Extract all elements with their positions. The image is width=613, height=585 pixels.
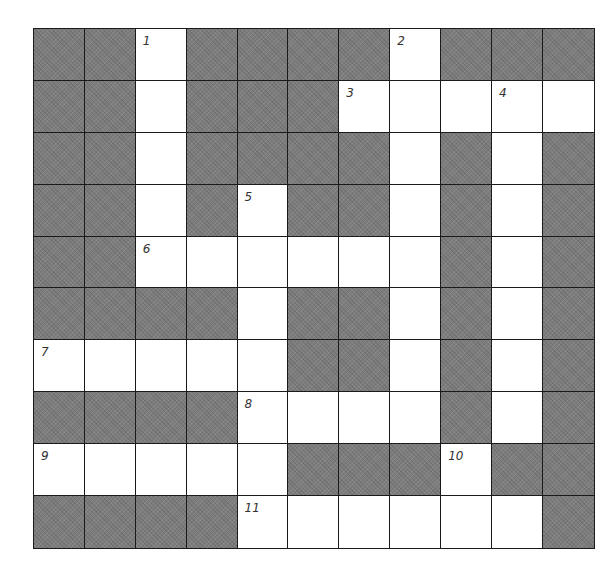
answer-cell[interactable] xyxy=(390,288,441,340)
block-cell xyxy=(288,133,339,185)
answer-cell[interactable] xyxy=(492,133,543,185)
block-cell xyxy=(492,444,543,496)
answer-cell[interactable] xyxy=(492,288,543,340)
answer-cell[interactable] xyxy=(492,392,543,444)
block-cell xyxy=(85,133,136,185)
answer-cell[interactable] xyxy=(543,81,594,133)
answer-cell[interactable]: 1 xyxy=(136,29,187,81)
answer-cell[interactable]: 11 xyxy=(238,496,289,548)
block-cell xyxy=(187,496,238,548)
cell-entry xyxy=(492,340,542,391)
block-cell xyxy=(34,185,85,237)
block-cell xyxy=(339,340,390,392)
cell-entry xyxy=(441,496,491,548)
answer-cell[interactable]: 3 xyxy=(339,81,390,133)
answer-cell[interactable] xyxy=(441,81,492,133)
answer-cell[interactable] xyxy=(390,392,441,444)
answer-cell[interactable] xyxy=(187,444,238,496)
block-cell xyxy=(288,81,339,133)
block-cell xyxy=(390,444,441,496)
block-cell xyxy=(441,185,492,237)
cell-entry xyxy=(34,340,84,391)
block-cell xyxy=(187,133,238,185)
cell-entry xyxy=(288,392,338,443)
answer-cell[interactable] xyxy=(187,237,238,289)
answer-cell[interactable] xyxy=(390,81,441,133)
answer-cell[interactable] xyxy=(390,133,441,185)
block-cell xyxy=(238,29,289,81)
block-cell xyxy=(543,237,594,289)
answer-cell[interactable]: 10 xyxy=(441,444,492,496)
block-cell xyxy=(85,288,136,340)
block-cell xyxy=(543,496,594,548)
cell-entry xyxy=(136,133,186,184)
answer-cell[interactable] xyxy=(85,340,136,392)
cell-entry xyxy=(492,392,542,443)
block-cell xyxy=(85,392,136,444)
block-cell xyxy=(543,29,594,81)
cell-entry xyxy=(34,444,84,495)
block-cell xyxy=(288,340,339,392)
block-cell xyxy=(34,392,85,444)
block-cell xyxy=(339,185,390,237)
block-cell xyxy=(288,288,339,340)
block-cell xyxy=(85,29,136,81)
block-cell xyxy=(441,29,492,81)
cell-entry xyxy=(390,81,440,132)
cell-entry xyxy=(390,288,440,339)
answer-cell[interactable] xyxy=(187,340,238,392)
answer-cell[interactable] xyxy=(492,340,543,392)
answer-cell[interactable]: 2 xyxy=(390,29,441,81)
block-cell xyxy=(288,444,339,496)
answer-cell[interactable] xyxy=(339,237,390,289)
block-cell xyxy=(238,81,289,133)
block-cell xyxy=(339,288,390,340)
answer-cell[interactable] xyxy=(390,237,441,289)
cell-entry xyxy=(390,340,440,391)
answer-cell[interactable] xyxy=(288,496,339,548)
answer-cell[interactable] xyxy=(136,444,187,496)
cell-entry xyxy=(187,237,237,288)
answer-cell[interactable] xyxy=(136,185,187,237)
cell-entry xyxy=(238,392,288,443)
cell-entry xyxy=(492,496,542,548)
answer-cell[interactable]: 7 xyxy=(34,340,85,392)
answer-cell[interactable] xyxy=(390,496,441,548)
answer-cell[interactable] xyxy=(390,185,441,237)
block-cell xyxy=(187,29,238,81)
answer-cell[interactable] xyxy=(136,340,187,392)
answer-cell[interactable] xyxy=(492,237,543,289)
answer-cell[interactable]: 6 xyxy=(136,237,187,289)
answer-cell[interactable] xyxy=(492,496,543,548)
answer-cell[interactable] xyxy=(238,444,289,496)
cell-entry xyxy=(288,237,338,288)
cell-entry xyxy=(187,340,237,391)
block-cell xyxy=(238,133,289,185)
answer-cell[interactable]: 9 xyxy=(34,444,85,496)
cell-entry xyxy=(238,496,288,548)
answer-cell[interactable] xyxy=(492,185,543,237)
answer-cell[interactable] xyxy=(441,496,492,548)
answer-cell[interactable] xyxy=(136,81,187,133)
answer-cell[interactable] xyxy=(339,392,390,444)
answer-cell[interactable] xyxy=(288,392,339,444)
answer-cell[interactable] xyxy=(339,496,390,548)
answer-cell[interactable] xyxy=(136,133,187,185)
answer-cell[interactable] xyxy=(238,340,289,392)
block-cell xyxy=(288,29,339,81)
answer-cell[interactable] xyxy=(238,237,289,289)
answer-cell[interactable]: 8 xyxy=(238,392,289,444)
answer-cell[interactable]: 5 xyxy=(238,185,289,237)
cell-entry xyxy=(136,444,186,495)
answer-cell[interactable] xyxy=(238,288,289,340)
answer-cell[interactable] xyxy=(390,340,441,392)
cell-entry xyxy=(390,29,440,80)
block-cell xyxy=(85,496,136,548)
answer-cell[interactable] xyxy=(288,237,339,289)
cell-entry xyxy=(136,29,186,80)
answer-cell[interactable]: 4 xyxy=(492,81,543,133)
block-cell xyxy=(441,392,492,444)
answer-cell[interactable] xyxy=(85,444,136,496)
block-cell xyxy=(288,185,339,237)
block-cell xyxy=(136,288,187,340)
